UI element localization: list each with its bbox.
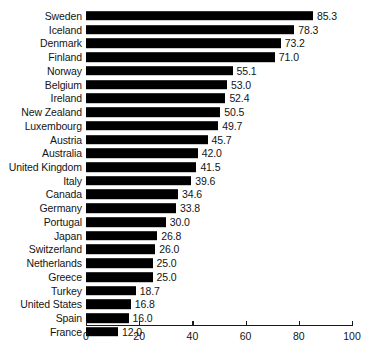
bar [86,327,118,337]
x-axis-tick-label: 0 [83,331,89,342]
category-label: Canada [0,189,82,200]
category-label: France [0,326,82,337]
category-label: Luxembourg [0,120,82,131]
value-label: 39.6 [195,175,215,186]
bar-row: Canada34.6 [0,188,366,202]
value-label: 30.0 [170,216,190,227]
bar [86,52,275,62]
value-label: 34.6 [182,189,202,200]
bar [86,272,153,282]
x-axis-tick [352,321,353,326]
value-label: 55.1 [237,65,257,76]
x-axis-tick [246,321,247,326]
value-label: 73.2 [285,38,305,49]
bar-row: Belgium53.0 [0,78,366,92]
bar [86,286,136,296]
bar [86,11,313,21]
bar [86,80,227,90]
bar-rows: Sweden85.3Iceland78.3Denmark73.2Finland7… [0,0,366,325]
bar [86,148,198,158]
bar-row: Norway55.1 [0,64,366,78]
category-label: Germany [0,203,82,214]
bar-row: Sweden85.3 [0,9,366,23]
bar [86,94,225,104]
category-label: Italy [0,175,82,186]
value-label: 53.0 [231,79,251,90]
category-label: Iceland [0,24,82,35]
bar-row: Japan26.8 [0,229,366,243]
category-label: United States [0,299,82,310]
value-label: 25.0 [157,258,177,269]
bar [86,258,153,268]
value-label: 78.3 [298,24,318,35]
bar [86,217,166,227]
value-label: 16.0 [133,313,153,324]
bar [86,39,281,49]
value-label: 52.4 [229,93,249,104]
bar [86,121,218,131]
category-label: Denmark [0,38,82,49]
bar [86,135,208,145]
category-label: Switzerland [0,244,82,255]
x-axis-tick-label: 60 [240,331,252,342]
value-label: 85.3 [317,10,337,21]
value-label: 45.7 [212,134,232,145]
bar-row: Iceland78.3 [0,23,366,37]
value-label: 16.8 [135,299,155,310]
value-label: 26.0 [159,244,179,255]
category-label: Norway [0,65,82,76]
x-axis-tick [192,321,193,326]
bar-row: United Kingdom41.5 [0,160,366,174]
value-label: 71.0 [279,52,299,63]
category-label: Australia [0,148,82,159]
bar [86,245,155,255]
category-label: Belgium [0,79,82,90]
value-label: 26.8 [161,230,181,241]
value-label: 50.5 [224,107,244,118]
bar-row: New Zealand50.5 [0,105,366,119]
bar-row: Greece25.0 [0,270,366,284]
value-label: 49.7 [222,120,242,131]
bar-row: Netherlands25.0 [0,256,366,270]
bar-row: France12.0 [0,325,366,339]
bar [86,231,157,241]
x-axis-tick-label: 100 [343,331,361,342]
bar [86,313,129,323]
bar-row: Luxembourg49.7 [0,119,366,133]
bar [86,25,294,35]
bar [86,176,191,186]
bar [86,300,131,310]
category-label: Austria [0,134,82,145]
category-label: Japan [0,230,82,241]
bar-row: Australia42.0 [0,146,366,160]
category-label: Spain [0,313,82,324]
bar-row: Turkey18.7 [0,284,366,298]
value-label: 25.0 [157,271,177,282]
bar-row: Germany33.8 [0,201,366,215]
category-label: Turkey [0,285,82,296]
bar [86,203,176,213]
value-label: 33.8 [180,203,200,214]
bar-row: Ireland52.4 [0,91,366,105]
category-label: New Zealand [0,107,82,118]
x-axis-tick [86,321,87,326]
x-axis-tick-label: 20 [133,331,145,342]
category-label: Netherlands [0,258,82,269]
bar-row: Denmark73.2 [0,36,366,50]
category-label: Ireland [0,93,82,104]
x-axis-line [86,325,352,326]
x-axis-tick-label: 40 [187,331,199,342]
bar [86,190,178,200]
category-label: United Kingdom [0,161,82,172]
bar-row: Austria45.7 [0,133,366,147]
category-label: Portugal [0,216,82,227]
bar-row: Italy39.6 [0,174,366,188]
x-axis-tick [299,321,300,326]
value-label: 18.7 [140,285,160,296]
category-label: Greece [0,271,82,282]
bar [86,66,233,76]
x-axis-tick [139,321,140,326]
bar-chart: Sweden85.3Iceland78.3Denmark73.2Finland7… [0,0,366,354]
category-label: Finland [0,52,82,63]
bar-row: Portugal30.0 [0,215,366,229]
